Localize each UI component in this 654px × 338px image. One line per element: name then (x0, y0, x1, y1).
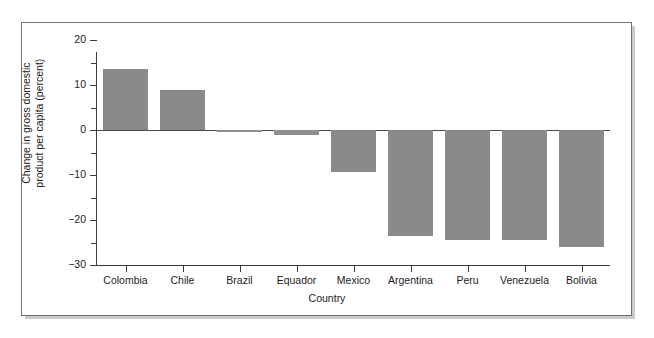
bar-colombia (103, 69, 147, 130)
y-tick-minor (91, 63, 97, 64)
x-tick-label-bolivia: Bolivia (553, 275, 610, 287)
y-tick-label: −20 (56, 214, 86, 225)
y-tick-minor (91, 153, 97, 154)
y-tick-label: 0 (56, 124, 86, 135)
x-tick-label-mexico: Mexico (325, 275, 382, 287)
y-tick-minor (91, 243, 97, 244)
x-tick (126, 266, 127, 272)
x-tick-label-brazil: Brazil (211, 275, 268, 287)
bar-chile (160, 90, 204, 131)
y-tick-major (90, 85, 97, 86)
bar-mexico (331, 130, 375, 172)
x-tick (411, 266, 412, 272)
y-tick-label: 10 (56, 79, 86, 90)
x-tick (582, 266, 583, 272)
y-tick-minor (91, 198, 97, 199)
y-axis-title-line1: Change in gross domestic (20, 28, 33, 218)
y-tick-major (90, 130, 97, 131)
x-tick (468, 266, 469, 272)
y-tick-label: −10 (56, 169, 86, 180)
bar-argentina (388, 130, 432, 236)
x-tick (354, 266, 355, 272)
x-tick (297, 266, 298, 272)
x-tick-label-argentina: Argentina (382, 275, 439, 287)
bar-venezuela (502, 130, 546, 240)
x-axis-line (96, 265, 610, 266)
y-axis-title: Change in gross domestic product per cap… (20, 28, 46, 218)
y-tick-major (90, 40, 97, 41)
y-tick-label: 20 (56, 34, 86, 45)
y-tick-label: −30 (56, 259, 86, 270)
x-axis-title: Country (0, 292, 654, 304)
x-tick-label-equador: Equador (268, 275, 325, 287)
figure-root: 20100−10−20−30 ColombiaChileBrazilEquado… (0, 0, 654, 338)
x-tick (183, 266, 184, 272)
bar-peru (445, 130, 489, 240)
x-tick-label-peru: Peru (439, 275, 496, 287)
x-tick-label-venezuela: Venezuela (496, 275, 553, 287)
bar-equador (274, 130, 318, 135)
y-tick-major (90, 175, 97, 176)
x-tick (240, 266, 241, 272)
bar-bolivia (559, 130, 603, 247)
y-tick-major (90, 265, 97, 266)
y-tick-minor (91, 108, 97, 109)
x-tick (525, 266, 526, 272)
bar-brazil (217, 130, 261, 132)
x-tick-label-colombia: Colombia (97, 275, 154, 287)
y-axis-title-line2: product per capita (percent) (33, 28, 46, 218)
y-tick-major (90, 220, 97, 221)
x-tick-label-chile: Chile (154, 275, 211, 287)
